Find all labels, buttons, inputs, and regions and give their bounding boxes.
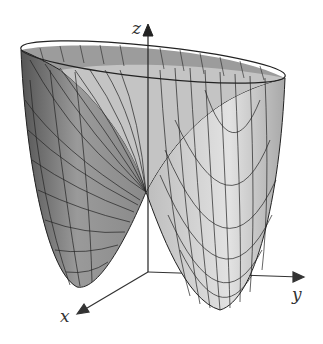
surface-plot [0, 0, 323, 344]
x-axis-arrow-icon [77, 304, 89, 314]
z-axis-label: z [132, 18, 141, 38]
z-axis-arrow-icon [143, 24, 153, 36]
x-axis-label: x [60, 306, 70, 326]
y-axis-label: y [292, 284, 302, 304]
y-axis-arrow-icon [293, 272, 304, 282]
